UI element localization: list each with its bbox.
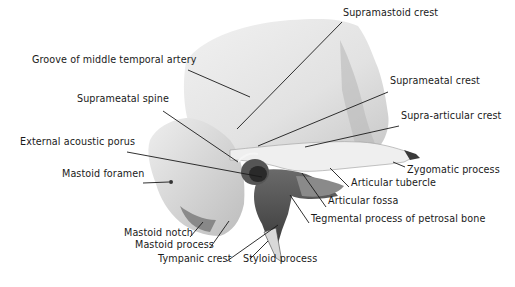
leader-supramastoid-crest bbox=[237, 22, 342, 129]
label-external-acoustic-porus: External acoustic porus bbox=[20, 136, 135, 147]
label-tegmental-process: Tegmental process of petrosal bone bbox=[311, 213, 485, 224]
leader-articular-tubercle bbox=[330, 168, 349, 187]
label-mastoid-notch: Mastoid notch bbox=[124, 227, 193, 238]
label-supra-articular-crest: Supra-articular crest bbox=[401, 110, 501, 121]
label-articular-fossa: Articular fossa bbox=[328, 195, 398, 206]
leader-external-acoustic-porus bbox=[127, 152, 262, 177]
leader-groove-middle-temporal-artery bbox=[188, 70, 250, 97]
label-supramastoid-crest: Supramastoid crest bbox=[343, 7, 438, 18]
label-tympanic-crest: Tympanic crest bbox=[158, 253, 232, 264]
label-groove-middle-temporal-artery: Groove of middle temporal artery bbox=[32, 54, 196, 65]
label-articular-tubercle: Articular tubercle bbox=[351, 177, 436, 188]
label-styloid-process: Styloid process bbox=[243, 253, 317, 264]
label-suprameatal-crest: Suprameatal crest bbox=[390, 75, 480, 86]
leader-suprameatal-crest bbox=[258, 92, 388, 146]
leader-supra-articular-crest bbox=[305, 126, 399, 147]
label-zygomatic-process: Zygomatic process bbox=[407, 164, 500, 175]
leader-tegmental-process bbox=[290, 195, 309, 223]
label-mastoid-process: Mastoid process bbox=[135, 239, 214, 250]
leader-mastoid-foramen bbox=[143, 182, 169, 183]
leader-zygomatic-process bbox=[393, 162, 405, 167]
label-suprameatal-spine: Suprameatal spine bbox=[77, 93, 169, 104]
leader-articular-fossa bbox=[302, 173, 326, 207]
label-mastoid-foramen: Mastoid foramen bbox=[62, 168, 145, 179]
leader-suprameatal-spine bbox=[163, 111, 238, 162]
temporal-bone-figure: Supramastoid crestGroove of middle tempo… bbox=[0, 0, 515, 287]
